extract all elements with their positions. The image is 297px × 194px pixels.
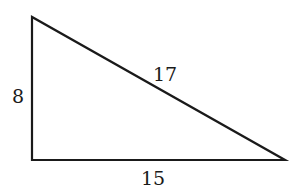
hypotenuse-label: 17 [153, 63, 177, 85]
horizontal-leg-label: 15 [141, 167, 165, 189]
triangle-svg: 8 17 15 [0, 0, 297, 194]
triangle-diagram: 8 17 15 [0, 0, 297, 194]
vertical-leg-label: 8 [12, 85, 24, 107]
right-triangle-shape [32, 17, 285, 160]
